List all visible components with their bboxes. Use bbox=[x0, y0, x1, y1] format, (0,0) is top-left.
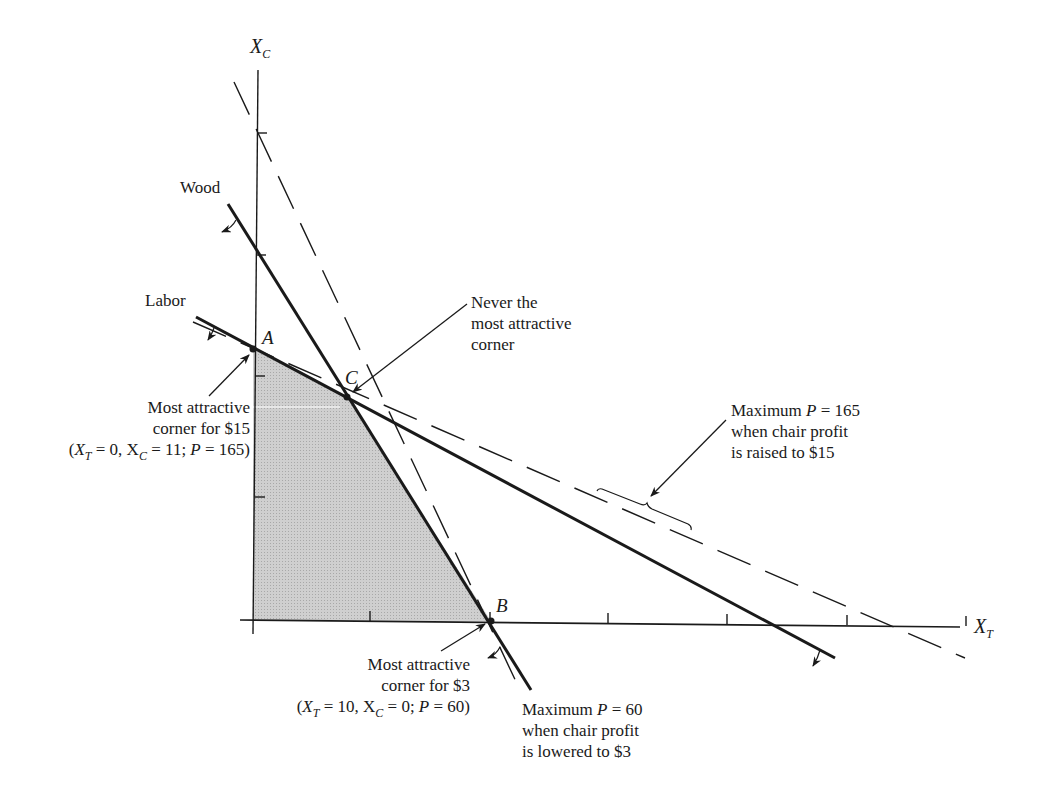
wood-label: Wood bbox=[180, 177, 220, 198]
arrow-to-b-icon bbox=[441, 624, 485, 651]
corner-15-coords: (XT = 0, XC = 11; P = 165) bbox=[69, 439, 250, 462]
wood-direction-arrow-icon bbox=[222, 220, 236, 232]
max-165-annotation: Maximum P = 165 when chair profit is rai… bbox=[731, 400, 860, 463]
labor-label: Labor bbox=[145, 290, 186, 311]
wood-end-arrow-icon bbox=[488, 647, 500, 658]
point-a-dot bbox=[250, 346, 257, 353]
corner-15-annotation: Most attractive corner for $15 (XT = 0, … bbox=[69, 397, 250, 462]
point-c-dot bbox=[344, 394, 351, 401]
point-b-label: B bbox=[496, 595, 508, 616]
arrow-to-c-icon bbox=[353, 304, 467, 392]
labor-end-arrow-icon bbox=[813, 650, 820, 666]
arrow-to-a-icon bbox=[209, 355, 249, 396]
max-60-annotation: Maximum P = 60 when chair profit is lowe… bbox=[522, 699, 643, 762]
feasible-region bbox=[253, 349, 491, 621]
point-b-dot bbox=[488, 618, 495, 625]
corner-3-coords: (XT = 10, XC = 0; P = 60) bbox=[297, 696, 470, 719]
point-c-label: C bbox=[345, 367, 358, 388]
never-attractive-annotation: Never the most attractive corner bbox=[471, 292, 572, 355]
brace-icon bbox=[597, 489, 691, 530]
x-axis bbox=[240, 620, 960, 627]
x-axis-label: XT bbox=[974, 616, 993, 640]
point-a-label: A bbox=[262, 327, 274, 348]
y-axis-label: XC bbox=[250, 36, 270, 60]
corner-3-annotation: Most attractive corner for $3 (XT = 10, … bbox=[297, 654, 470, 719]
arrow-to-165-line-icon bbox=[651, 420, 726, 496]
